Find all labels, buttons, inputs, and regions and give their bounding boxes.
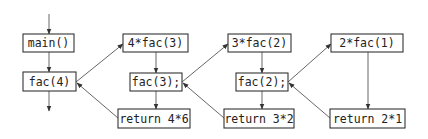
arrow-fac2-to-call1 xyxy=(288,44,331,82)
node-call3: 4*fac(3) xyxy=(123,34,188,52)
node-call2: 3*fac(2) xyxy=(228,34,291,52)
arrow-ret46-to-fac4 xyxy=(77,83,118,118)
node-ret21: return 2*1 xyxy=(330,109,405,128)
node-label: 4*fac(3) xyxy=(128,36,183,50)
node-label: fac(2); xyxy=(238,75,286,89)
node-ret46: return 4*6 xyxy=(118,109,190,128)
node-label: 3*fac(2) xyxy=(232,36,287,50)
edge-layer xyxy=(49,14,368,118)
node-label: return 3*2 xyxy=(224,112,293,126)
node-label: return 4*6 xyxy=(119,112,188,126)
node-ret32: return 3*2 xyxy=(224,109,294,128)
arrow-fac4-to-call3 xyxy=(76,44,123,82)
node-label: fac(3); xyxy=(132,75,180,89)
arrow-ret21-to-fac2 xyxy=(289,83,330,118)
node-label: 2*fac(1) xyxy=(339,36,394,50)
node-label: main() xyxy=(28,36,70,50)
node-layer: main()fac(4)4*fac(3)fac(3);return 4*63*f… xyxy=(23,34,405,128)
node-label: return 2*1 xyxy=(333,112,402,126)
arrow-fac3-to-call2 xyxy=(182,44,228,82)
node-main: main() xyxy=(23,34,74,52)
node-fac3: fac(3); xyxy=(130,73,182,91)
node-call1: 2*fac(1) xyxy=(331,34,403,52)
node-fac4: fac(4) xyxy=(23,72,76,91)
node-fac2: fac(2); xyxy=(236,73,288,91)
factorial-call-diagram: main()fac(4)4*fac(3)fac(3);return 4*63*f… xyxy=(0,0,428,139)
node-label: fac(4) xyxy=(29,75,71,89)
